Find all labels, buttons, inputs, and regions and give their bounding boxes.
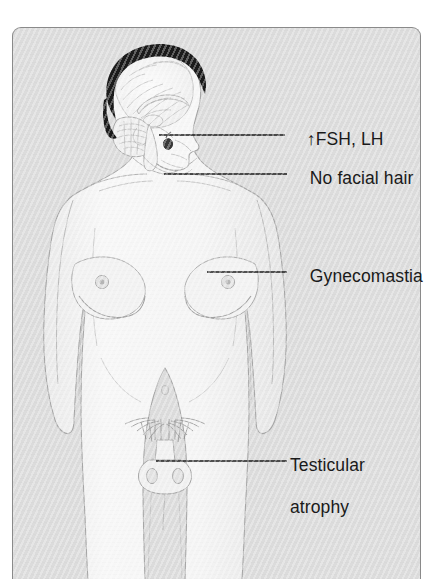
fsh-lh-text: ↑FSH, LH — [307, 129, 384, 149]
body-silhouette — [44, 123, 287, 579]
testicular-atrophy-label: Testicular atrophy — [290, 434, 365, 539]
navel — [162, 386, 169, 395]
illustration-screenshot: ↑FSH, LH No facial hair Gynecomastia Tes… — [0, 0, 439, 579]
no-facial-hair-text: No facial hair — [310, 168, 414, 188]
gynecomastia-text: Gynecomastia — [310, 266, 423, 286]
no-facial-hair-label: No facial hair — [290, 147, 413, 210]
testicular-atrophy-line1: Testicular — [290, 455, 365, 476]
gynecomastia-label: Gynecomastia — [290, 245, 423, 308]
testicular-atrophy-line2: atrophy — [290, 497, 365, 518]
